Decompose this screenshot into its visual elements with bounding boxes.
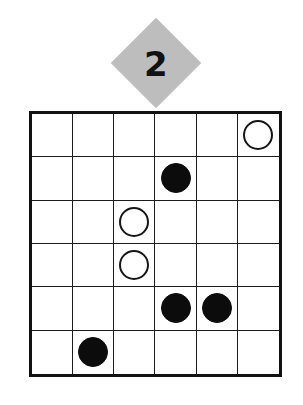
board-cell-r5-c6[interactable] — [238, 287, 279, 330]
board-cell-r1-c6[interactable] — [238, 114, 279, 157]
board-cell-r1-c3[interactable] — [114, 114, 155, 157]
board-cell-r2-c4[interactable] — [155, 157, 196, 200]
problem-number-badge: 2 — [110, 17, 201, 108]
board-row — [32, 244, 279, 287]
board-cell-r1-c2[interactable] — [73, 114, 114, 157]
white-stone[interactable] — [119, 207, 149, 237]
board-cell-r6-c5[interactable] — [197, 331, 238, 374]
board-cell-r6-c1[interactable] — [32, 331, 73, 374]
board-grid — [32, 114, 279, 374]
black-stone[interactable] — [161, 293, 191, 323]
board-cell-r4-c1[interactable] — [32, 244, 73, 287]
board-cell-r3-c5[interactable] — [197, 201, 238, 244]
board-cell-r5-c4[interactable] — [155, 287, 196, 330]
black-stone[interactable] — [202, 293, 232, 323]
board-cell-r2-c3[interactable] — [114, 157, 155, 200]
board-row — [32, 331, 279, 374]
board-cell-r3-c1[interactable] — [32, 201, 73, 244]
board-row — [32, 157, 279, 200]
board-cell-r1-c5[interactable] — [197, 114, 238, 157]
puzzle-diagram: 2 — [0, 0, 303, 405]
board-cell-r5-c5[interactable] — [197, 287, 238, 330]
board-cell-r3-c6[interactable] — [238, 201, 279, 244]
board-cell-r6-c6[interactable] — [238, 331, 279, 374]
board-cell-r1-c1[interactable] — [32, 114, 73, 157]
board-cell-r4-c5[interactable] — [197, 244, 238, 287]
white-stone[interactable] — [243, 120, 273, 150]
board-cell-r4-c3[interactable] — [114, 244, 155, 287]
board-cell-r6-c3[interactable] — [114, 331, 155, 374]
board-cell-r4-c6[interactable] — [238, 244, 279, 287]
board-row — [32, 114, 279, 157]
board-cell-r4-c2[interactable] — [73, 244, 114, 287]
board-cell-r2-c2[interactable] — [73, 157, 114, 200]
black-stone[interactable] — [78, 337, 108, 367]
board-cell-r2-c6[interactable] — [238, 157, 279, 200]
problem-number-label: 2 — [110, 17, 201, 108]
board-row — [32, 201, 279, 244]
white-stone[interactable] — [119, 250, 149, 280]
board-cell-r3-c4[interactable] — [155, 201, 196, 244]
board-cell-r2-c1[interactable] — [32, 157, 73, 200]
board-cell-r4-c4[interactable] — [155, 244, 196, 287]
board-cell-r5-c1[interactable] — [32, 287, 73, 330]
board-cell-r6-c2[interactable] — [73, 331, 114, 374]
board-cell-r5-c3[interactable] — [114, 287, 155, 330]
board-cell-r2-c5[interactable] — [197, 157, 238, 200]
black-stone[interactable] — [161, 163, 191, 193]
board-row — [32, 287, 279, 330]
board-cell-r3-c2[interactable] — [73, 201, 114, 244]
board-cell-r5-c2[interactable] — [73, 287, 114, 330]
board-cell-r6-c4[interactable] — [155, 331, 196, 374]
game-board[interactable] — [29, 111, 282, 377]
board-cell-r1-c4[interactable] — [155, 114, 196, 157]
board-cell-r3-c3[interactable] — [114, 201, 155, 244]
